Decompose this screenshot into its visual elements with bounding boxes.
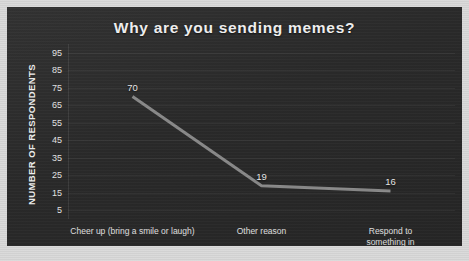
y-tick-label: 35 — [52, 153, 62, 163]
data-point-label: 16 — [385, 176, 396, 187]
y-tick-label: 15 — [52, 188, 62, 198]
y-tick-label: 25 — [52, 170, 62, 180]
x-tick-label: Cheer up (bring a smile or laugh) — [70, 226, 194, 237]
y-tick-label: 55 — [52, 118, 62, 128]
y-tick-label: 85 — [52, 65, 62, 75]
plot-area: 5152535455565758595 701916 Cheer up (bri… — [68, 44, 455, 219]
y-tick-label: 65 — [52, 100, 62, 110]
x-tick-label: Other reason — [237, 226, 287, 237]
y-tick-label: 75 — [52, 83, 62, 93]
x-tick-label: Respond to something in conversation (re… — [358, 226, 423, 246]
chart-title: Why are you sending memes? — [7, 19, 462, 37]
data-point-label: 19 — [256, 171, 267, 182]
y-tick-label: 95 — [52, 48, 62, 58]
chart-panel: Why are you sending memes? NUMBER OF RES… — [7, 7, 462, 246]
y-axis-title: NUMBER OF RESPONDENTS — [23, 55, 39, 215]
y-tick-label: 5 — [57, 205, 62, 215]
data-series-line — [68, 44, 455, 219]
chart-screenshot: Why are you sending memes? NUMBER OF RES… — [0, 0, 469, 261]
data-point-label: 70 — [127, 82, 138, 93]
y-tick-label: 45 — [52, 135, 62, 145]
